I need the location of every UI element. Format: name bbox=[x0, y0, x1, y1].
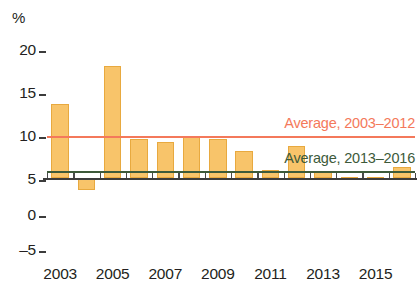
y-axis-tick-mark-5 bbox=[39, 180, 46, 182]
y-axis-tick-mark-20 bbox=[39, 51, 46, 53]
x-axis-tick-label-2009: 2009 bbox=[192, 265, 244, 283]
x-axis-tick-label-2005: 2005 bbox=[87, 265, 139, 283]
average-2003-2012-line bbox=[47, 136, 415, 138]
y-axis-tick-mark-15 bbox=[39, 94, 46, 96]
x-axis-tick-mark bbox=[310, 173, 311, 178]
x-axis-tick-mark bbox=[205, 173, 206, 178]
y-axis-tick-label-15: 15 bbox=[6, 84, 36, 102]
x-axis-tick-label-2013: 2013 bbox=[297, 265, 349, 283]
y-axis-tick-label-minus5: –5 bbox=[2, 241, 36, 259]
x-axis-tick-mark bbox=[100, 173, 101, 178]
bar bbox=[78, 178, 95, 190]
y-axis-tick-label-5: 5 bbox=[6, 170, 36, 188]
y-axis-tick-mark-0 bbox=[39, 216, 46, 218]
y-axis-unit-label: % bbox=[12, 9, 25, 26]
x-axis-tick-mark bbox=[47, 173, 48, 178]
x-axis-tick-mark bbox=[362, 173, 363, 178]
x-axis-tick-label-2015: 2015 bbox=[350, 265, 402, 283]
y-axis-tick-mark-minus5 bbox=[39, 251, 46, 253]
x-axis-tick-mark bbox=[257, 173, 258, 178]
x-axis-baseline bbox=[43, 178, 417, 180]
x-axis-tick-mark bbox=[152, 173, 153, 178]
x-axis-tick-mark bbox=[231, 173, 232, 178]
plot-area: Average, 2003–2012Average, 2013–2016 bbox=[47, 30, 415, 215]
x-axis-tick-mark bbox=[73, 173, 74, 178]
x-axis-tick-mark bbox=[178, 173, 179, 178]
x-axis-tick-mark bbox=[126, 173, 127, 178]
x-axis-tick-mark bbox=[336, 173, 337, 178]
x-axis-tick-mark bbox=[389, 173, 390, 178]
y-axis-tick-label-10: 10 bbox=[6, 127, 36, 145]
average-2003-2012-label: Average, 2003–2012 bbox=[284, 115, 415, 131]
bar bbox=[51, 104, 68, 178]
x-axis-tick-label-2007: 2007 bbox=[139, 265, 191, 283]
y-axis-tick-label-0: 0 bbox=[6, 206, 36, 224]
x-axis-tick-label-2011: 2011 bbox=[244, 265, 296, 283]
y-axis-tick-label-20: 20 bbox=[6, 41, 36, 59]
average-2013-2016-label: Average, 2013–2016 bbox=[284, 150, 415, 166]
bar-chart: % 20 15 10 5 0 –5 Average, 2003–2012Aver… bbox=[0, 0, 420, 288]
y-axis-tick-mark-10 bbox=[39, 137, 46, 139]
bar bbox=[104, 66, 121, 178]
x-axis-tick-mark bbox=[284, 173, 285, 178]
x-axis-tick-mark bbox=[415, 173, 416, 178]
bar bbox=[235, 151, 252, 178]
x-axis-tick-label-2003: 2003 bbox=[34, 265, 86, 283]
